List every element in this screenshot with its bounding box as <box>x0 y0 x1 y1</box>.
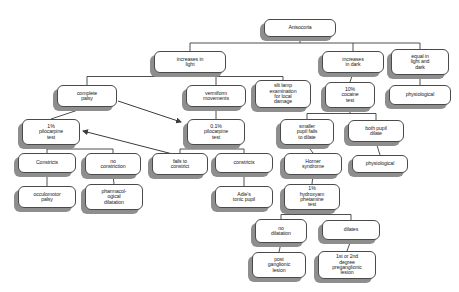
node-label: fails to constrict <box>155 159 205 170</box>
diagram-canvas: Anisocoriaincreases in lightincreases in… <box>0 0 459 292</box>
node-label: vermiform movements <box>189 91 243 102</box>
node-label: Constricts <box>21 160 73 165</box>
node-label: slit lamp examination for local damage <box>258 83 308 104</box>
node-increases_dark[interactable]: increases in dark <box>322 51 384 73</box>
node-label: occulomotor palsy <box>21 192 73 203</box>
node-dilates[interactable]: dilates <box>322 220 380 240</box>
node-label: both pupil dilate <box>351 126 401 137</box>
node-constricts_a[interactable]: Constricts <box>18 153 76 173</box>
node-label: no dilatation <box>258 226 304 237</box>
node-label: dilates <box>325 227 377 232</box>
node-label: equal in light and dark <box>394 54 446 70</box>
node-adies[interactable]: Adie's tonic pupil <box>215 186 273 208</box>
node-label: no constriction <box>88 159 138 170</box>
node-label: post ganglionic lesion <box>255 257 303 273</box>
node-physiological_a[interactable]: physiological <box>389 85 451 105</box>
node-label: 10% cocaine test <box>328 87 372 103</box>
node-label: increases in dark <box>325 57 381 68</box>
node-no_dilatation[interactable]: no dilatation <box>255 219 307 243</box>
node-equal_light_dark[interactable]: equal in light and dark <box>391 49 449 75</box>
node-physiological_b[interactable]: physiological <box>352 155 408 173</box>
node-label: pharmacol- ogical dilatation <box>88 189 140 205</box>
node-constricts_b[interactable]: constricts <box>215 153 273 173</box>
node-label: increases in light <box>157 57 223 68</box>
node-complete_palsy[interactable]: complete palsy <box>57 85 117 107</box>
node-no_constriction[interactable]: no constriction <box>85 153 141 175</box>
node-anisocoria[interactable]: Anisocoria <box>264 19 336 37</box>
node-smaller_pupil[interactable]: smaller pupil fails to dilate <box>280 119 334 145</box>
node-label: complete palsy <box>60 91 114 102</box>
node-occulomotor[interactable]: occulomotor palsy <box>18 186 76 208</box>
node-pharmacological[interactable]: pharmacol- ogical dilatation <box>85 184 143 210</box>
node-slit_lamp[interactable]: slit lamp examination for local damage <box>255 80 311 108</box>
node-pilo_01[interactable]: 0.1% pilocarpine test <box>187 119 245 145</box>
node-both_pupil[interactable]: both pupil dilate <box>348 120 404 142</box>
node-label: 0.1% pilocarpine test <box>190 124 242 140</box>
node-label: physiological <box>355 161 405 166</box>
node-hydroxyamphetamine[interactable]: 1% hydroxyam phetamine test <box>284 184 340 210</box>
node-label: 1% hydroxyam phetamine test <box>287 186 337 207</box>
node-preganglionic[interactable]: 1st or 2nd degree preganglionic lesion <box>318 251 376 279</box>
node-label: 1st or 2nd degree preganglionic lesion <box>321 254 373 275</box>
node-pilo_1[interactable]: 1% pilocarpine test <box>22 119 80 145</box>
node-increases_light[interactable]: increases in light <box>154 51 226 73</box>
node-label: 1% pilocarpine test <box>25 124 77 140</box>
node-horner[interactable]: Horner syndrome <box>284 153 342 175</box>
node-label: constricts <box>218 160 270 165</box>
node-vermiform[interactable]: vermiform movements <box>186 85 246 107</box>
node-label: Horner syndrome <box>287 159 339 170</box>
node-fails_constrict[interactable]: fails to constrict <box>152 153 208 175</box>
node-label: Adie's tonic pupil <box>218 192 270 203</box>
node-cocaine_test[interactable]: 10% cocaine test <box>325 82 375 108</box>
node-label: physiological <box>392 92 448 97</box>
node-label: Anisocoria <box>267 25 333 30</box>
node-post_ganglionic[interactable]: post ganglionic lesion <box>252 252 306 278</box>
arrow-complete-palsy-to-pilo01 <box>118 101 181 122</box>
node-label: smaller pupil fails to dilate <box>283 124 331 140</box>
